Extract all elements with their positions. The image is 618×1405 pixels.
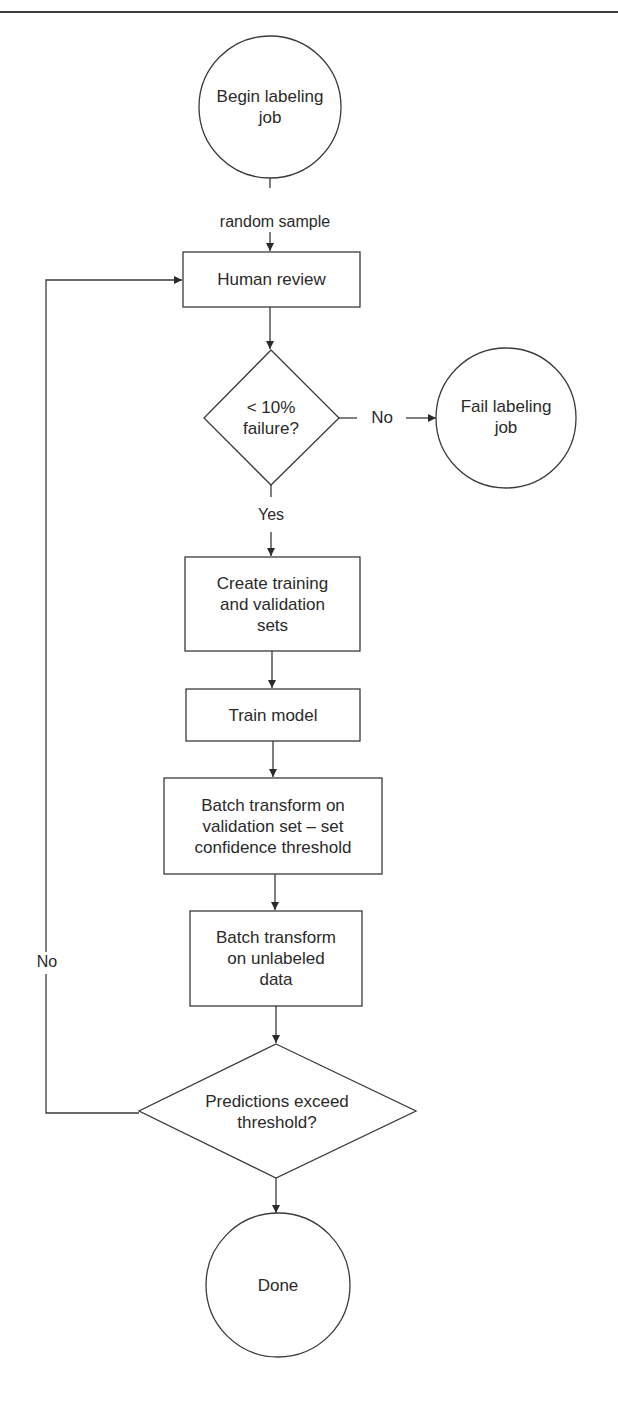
edge-label-threshold-no: No	[30, 953, 64, 971]
batch-unlabeled-node-label: Batch transform on unlabeled data	[190, 911, 362, 1006]
edge-label-failure-yes: Yes	[246, 506, 296, 524]
labeling-workflow-flowchart: Begin labeling job Human review < 10% fa…	[0, 0, 618, 1405]
threshold-check-node-label: Predictions exceed threshold?	[170, 1088, 384, 1136]
failure-check-node-label: < 10% failure?	[214, 393, 328, 443]
batch-validation-node-label: Batch transform on validation set – set …	[164, 778, 382, 874]
edge-threshold-no-lower	[46, 974, 139, 1113]
edge-threshold-no-upper	[46, 280, 182, 952]
train-model-node-label: Train model	[186, 689, 360, 741]
human-review-node-label: Human review	[183, 252, 360, 307]
fail-job-node-label: Fail labeling job	[436, 384, 576, 450]
start-node-label: Begin labeling job	[200, 72, 340, 142]
edge-label-random-sample: random sample	[200, 213, 350, 231]
edge-label-failure-no: No	[359, 409, 405, 427]
done-node-label: Done	[218, 1272, 338, 1298]
create-sets-node-label: Create training and validation sets	[185, 557, 360, 651]
